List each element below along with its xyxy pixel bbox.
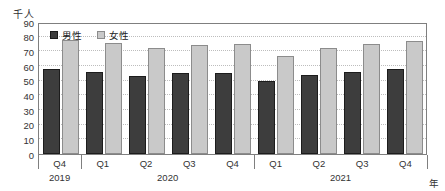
x-axis-tick-label: Q4: [384, 158, 427, 169]
y-axis-tick-label: 0: [0, 150, 34, 161]
x-axis-unit-label: 年: [429, 176, 439, 190]
y-axis-tick-label: 70: [0, 47, 34, 58]
x-axis-tick-label: Q4: [38, 158, 81, 169]
year-label-2020: 2020: [157, 172, 178, 183]
bar-group-q4-8: [383, 41, 426, 154]
bar-male-7: [344, 72, 361, 154]
year-separator-tick: [427, 155, 428, 169]
bar-female-1: [105, 43, 122, 154]
bar-female-8: [406, 41, 423, 154]
bar-female-5: [277, 56, 294, 154]
legend-item-female: 女性: [97, 28, 129, 42]
bar-male-8: [387, 69, 404, 154]
bar-group-q4-4: [211, 44, 254, 154]
year-separator-tick: [38, 155, 39, 169]
plot-area: 男性 女性: [38, 23, 427, 155]
y-axis-tick-label: 90: [0, 18, 34, 29]
x-axis-tick-label: Q3: [341, 158, 384, 169]
bar-male-0: [43, 69, 60, 154]
x-axis-tick-label: Q2: [297, 158, 340, 169]
legend-swatch-female: [97, 31, 105, 39]
bar-male-5: [258, 81, 275, 154]
year-separator-tick: [81, 155, 82, 169]
bar-male-3: [172, 73, 189, 154]
bar-female-0: [62, 40, 79, 154]
bar-female-2: [148, 48, 165, 154]
bar-group-q2-6: [297, 48, 340, 154]
bar-male-6: [301, 75, 318, 154]
x-axis-tick-label: Q1: [81, 158, 124, 169]
bar-female-6: [320, 48, 337, 154]
bar-male-2: [129, 76, 146, 154]
bar-female-7: [363, 44, 380, 154]
legend-swatch-male: [50, 31, 58, 39]
bar-female-4: [234, 44, 251, 154]
y-axis-tick-label: 20: [0, 120, 34, 131]
legend-label-male: 男性: [62, 28, 82, 42]
year-separator-tick: [254, 155, 255, 169]
y-axis-tick-label: 60: [0, 62, 34, 73]
legend-label-female: 女性: [109, 28, 129, 42]
legend-item-male: 男性: [50, 28, 82, 42]
x-axis-tick-label: Q1: [254, 158, 297, 169]
bar-group-q2-2: [125, 48, 168, 154]
year-label-2019: 2019: [49, 172, 70, 183]
x-axis-tick-label: Q4: [211, 158, 254, 169]
bar-chart-figure: 千人 0102030405060708090 男性 女性 Q4Q1Q2Q3Q4Q…: [0, 0, 445, 191]
legend: 男性 女性: [50, 28, 129, 42]
y-axis-tick-label: 80: [0, 32, 34, 43]
year-label-2021: 2021: [330, 172, 351, 183]
bar-group-q1-1: [82, 43, 125, 154]
x-axis-tick-label: Q2: [124, 158, 167, 169]
x-axis-quarter-labels: Q4Q1Q2Q3Q4Q1Q2Q3Q4: [38, 158, 427, 169]
bar-male-1: [86, 72, 103, 154]
bars-container: [39, 24, 426, 154]
bar-group-q4-0: [39, 40, 82, 154]
bar-male-4: [215, 73, 232, 154]
bar-group-q3-7: [340, 44, 383, 154]
y-axis-tick-label: 30: [0, 106, 34, 117]
y-axis-tick-label: 50: [0, 76, 34, 87]
y-axis-tick-label: 40: [0, 91, 34, 102]
bar-group-q1-5: [254, 56, 297, 154]
x-axis-tick-label: Q3: [168, 158, 211, 169]
bar-female-3: [191, 45, 208, 154]
bar-group-q3-3: [168, 45, 211, 154]
y-axis-tick-label: 10: [0, 135, 34, 146]
